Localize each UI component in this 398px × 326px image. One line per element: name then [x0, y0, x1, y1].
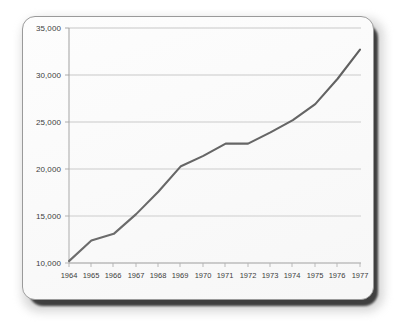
x-ticks	[69, 263, 360, 267]
y-tick-label-15000: 15,000	[22, 212, 61, 221]
y-tick-label-20000: 20,000	[22, 165, 61, 174]
line-chart	[23, 17, 374, 300]
data-series-line	[69, 50, 360, 262]
y-tick-label-25000: 25,000	[22, 118, 61, 127]
y-tick-label-10000: 10,000	[22, 259, 61, 268]
x-tick-label-1977: 1977	[347, 271, 373, 280]
chart-card: 35,000 30,000 25,000 20,000 15,000 10,00…	[22, 16, 374, 300]
y-tick-label-35000: 35,000	[22, 24, 61, 33]
screenshot-stage: 35,000 30,000 25,000 20,000 15,000 10,00…	[0, 0, 398, 326]
y-ticks	[65, 28, 69, 263]
y-tick-label-30000: 30,000	[22, 71, 61, 80]
gridlines	[69, 28, 361, 263]
